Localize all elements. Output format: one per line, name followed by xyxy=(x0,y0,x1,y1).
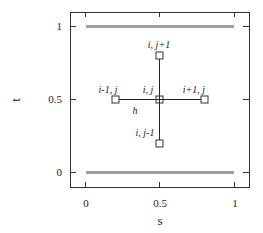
x-tick-label-1: 1 xyxy=(232,197,238,209)
y-axis-title: t xyxy=(8,98,23,102)
node-top-marker xyxy=(156,52,163,59)
label-right: i+1, j xyxy=(183,84,206,95)
y-tick-label-0: 0 xyxy=(57,166,63,178)
x-tick-label-0.5: 0.5 xyxy=(153,197,167,209)
y-tick-label-0.5: 0.5 xyxy=(48,93,62,105)
node-right-marker xyxy=(201,96,208,103)
node-left-marker xyxy=(112,96,119,103)
label-spacing-h: h xyxy=(133,105,138,116)
label-top: i, j+1 xyxy=(148,39,170,50)
x-tick-label-0: 0 xyxy=(83,197,89,209)
stencil-diagram: 0 0.5 1 0 0.5 1 s t i, j i-1, j i+1, j i… xyxy=(0,0,263,233)
label-center: i, j xyxy=(143,84,154,95)
label-bottom: i, j-1 xyxy=(136,127,155,138)
label-left: i-1, j xyxy=(99,84,118,95)
x-axis-title: s xyxy=(157,213,162,228)
node-bottom-marker xyxy=(156,140,163,147)
y-tick-label-1: 1 xyxy=(57,20,63,32)
